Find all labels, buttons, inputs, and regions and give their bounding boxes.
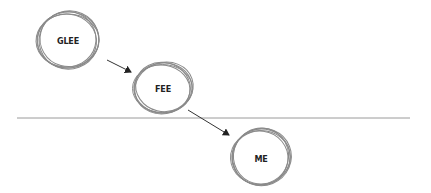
diagram-canvas: GLEE FEE ME bbox=[0, 0, 431, 193]
node-me-label: ME bbox=[254, 153, 267, 164]
arrow-glee-to-fee bbox=[107, 60, 131, 72]
diagram-svg bbox=[0, 0, 431, 193]
node-glee-label: GLEE bbox=[57, 35, 79, 46]
arrow-fee-to-me bbox=[188, 110, 229, 135]
node-fee-label: FEE bbox=[155, 83, 171, 94]
